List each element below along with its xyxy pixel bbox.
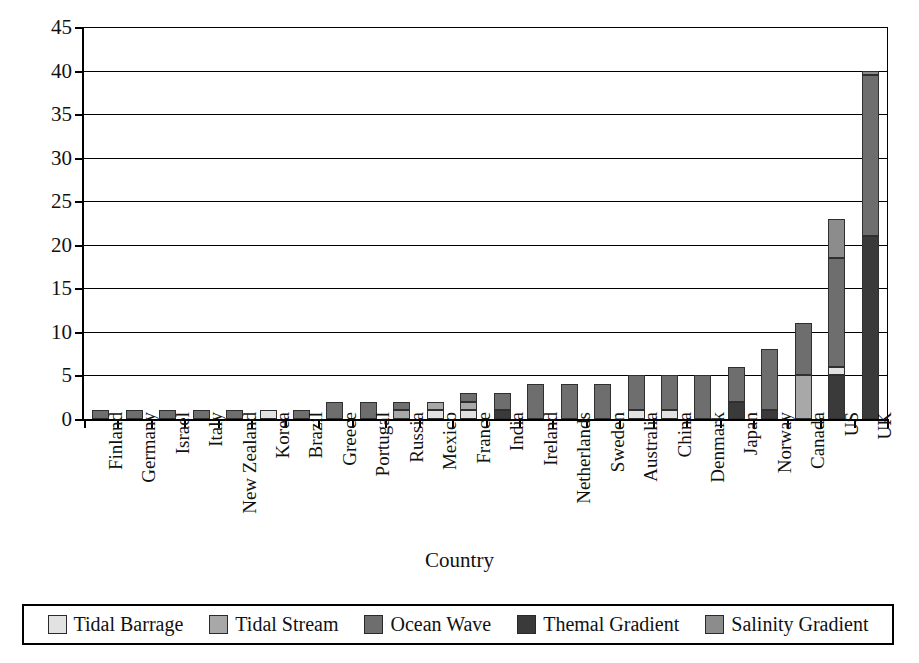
y-axis-title: Number of systems — [10, 0, 44, 52]
bar-russia[interactable] — [393, 27, 410, 419]
x-axis-tick — [84, 419, 86, 428]
bar-uk[interactable] — [862, 27, 879, 419]
bar-korea[interactable] — [260, 27, 277, 419]
x-axis-label-canada: Canada — [808, 412, 827, 532]
x-axis-label-denmark: Denmark — [708, 412, 727, 532]
x-axis-label-korea: Korea — [273, 412, 292, 532]
bar-ireland[interactable] — [527, 27, 544, 419]
bar-portugal[interactable] — [360, 27, 377, 419]
legend-swatch-icon — [364, 615, 383, 634]
x-axis-label-finland: Finland — [106, 412, 125, 532]
x-axis-label-india: India — [507, 412, 526, 532]
y-axis-tick — [75, 419, 84, 421]
y-axis-tick — [75, 332, 84, 334]
y-axis-tick — [75, 375, 84, 377]
bar-segment — [862, 236, 879, 419]
bar-segment — [761, 349, 778, 410]
y-axis-tick — [75, 288, 84, 290]
bar-mexico[interactable] — [427, 27, 444, 419]
legend-label: Tidal Barrage — [74, 613, 184, 636]
x-axis-label-australia: Australia — [641, 412, 660, 532]
bar-china[interactable] — [661, 27, 678, 419]
legend-label: Tidal Stream — [235, 613, 338, 636]
bar-segment — [460, 393, 477, 402]
chart-figure: 051015202530354045 Number of systems Fin… — [0, 0, 919, 663]
bar-segment — [728, 367, 745, 402]
legend-swatch-icon — [517, 615, 536, 634]
bar-segment — [828, 258, 845, 367]
legend-item[interactable]: Ocean Wave — [364, 613, 491, 636]
bar-netherlands[interactable] — [561, 27, 578, 419]
x-axis-label-sweden: Sweden — [608, 412, 627, 532]
bar-norway[interactable] — [761, 27, 778, 419]
bar-brazil[interactable] — [293, 27, 310, 419]
legend-item[interactable]: Tidal Barrage — [48, 613, 184, 636]
bar-segment — [460, 402, 477, 411]
legend-item[interactable]: Salinity Gradient — [705, 613, 868, 636]
y-axis-tick — [75, 201, 84, 203]
plot-inner — [84, 27, 887, 419]
bar-australia[interactable] — [628, 27, 645, 419]
y-axis-tick — [75, 114, 84, 116]
bar-segment — [795, 323, 812, 375]
plot-area — [82, 27, 888, 419]
bar-sweden[interactable] — [594, 27, 611, 419]
legend-item[interactable]: Themal Gradient — [517, 613, 679, 636]
x-axis-label-germany: Germany — [139, 412, 158, 532]
x-axis-label-portugal: Portugal — [373, 412, 392, 532]
legend-label: Salinity Gradient — [731, 613, 868, 636]
legend-swatch-icon — [209, 615, 228, 634]
bar-israel[interactable] — [159, 27, 176, 419]
bar-segment — [862, 71, 879, 75]
bar-segment — [628, 375, 645, 410]
x-axis-label-israel: Israel — [173, 412, 192, 532]
bar-canada[interactable] — [795, 27, 812, 419]
bar-finland[interactable] — [92, 27, 109, 419]
bar-us[interactable] — [828, 27, 845, 419]
bar-india[interactable] — [494, 27, 511, 419]
bar-france[interactable] — [460, 27, 477, 419]
x-axis-label-greece: Greece — [340, 412, 359, 532]
x-axis-category-labels: FinlandGermanyIsraelItalyNew ZealandKore… — [82, 428, 885, 538]
bar-segment — [661, 375, 678, 410]
legend-label: Ocean Wave — [390, 613, 491, 636]
x-axis-label-brazil: Brazil — [306, 412, 325, 532]
bar-greece[interactable] — [326, 27, 343, 419]
legend-label: Themal Gradient — [543, 613, 679, 636]
x-axis-label-uk: UK — [875, 412, 894, 532]
x-axis-label-china: China — [675, 412, 694, 532]
legend-swatch-icon — [705, 615, 724, 634]
x-axis-label-norway: Norway — [775, 412, 794, 532]
bar-denmark[interactable] — [694, 27, 711, 419]
bar-italy[interactable] — [193, 27, 210, 419]
y-axis-tick — [75, 27, 84, 29]
y-axis-tick — [75, 245, 84, 247]
bar-new-zealand[interactable] — [226, 27, 243, 419]
bar-segment — [427, 402, 444, 411]
bar-germany[interactable] — [126, 27, 143, 419]
y-axis-title-wrap: Number of systems — [8, 18, 42, 418]
legend-swatch-icon — [48, 615, 67, 634]
bar-segment — [494, 393, 511, 410]
legend-item[interactable]: Tidal Stream — [209, 613, 338, 636]
y-axis-tick — [75, 71, 84, 73]
bar-segment — [828, 367, 845, 376]
x-axis-label-ireland: Ireland — [541, 412, 560, 532]
bar-segment — [862, 75, 879, 236]
x-axis-title: Country — [0, 548, 919, 573]
bar-segment — [828, 219, 845, 258]
x-axis-label-italy: Italy — [206, 412, 225, 532]
x-axis-label-new-zealand: New Zealand — [240, 412, 259, 532]
bar-japan[interactable] — [728, 27, 745, 419]
chart-legend: Tidal BarrageTidal StreamOcean WaveThema… — [22, 604, 894, 645]
bar-segment — [393, 402, 410, 411]
x-axis-label-japan: Japan — [741, 412, 760, 532]
x-axis-label-russia: Russia — [407, 412, 426, 532]
x-axis-label-netherlands: Netherlands — [574, 412, 593, 532]
x-axis-label-france: France — [474, 412, 493, 532]
x-axis-label-mexico: Mexico — [440, 412, 459, 532]
y-axis-tick — [75, 158, 84, 160]
x-axis-label-us: US — [842, 412, 861, 532]
